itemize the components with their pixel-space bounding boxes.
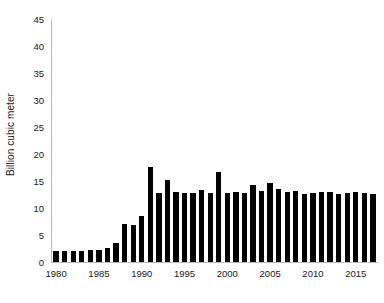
y-axis-tick-label: 25 bbox=[33, 122, 44, 133]
x-axis-tick-label: 1980 bbox=[46, 268, 67, 279]
x-axis-tick-label: 2015 bbox=[345, 268, 366, 279]
bar bbox=[310, 193, 315, 262]
bar bbox=[96, 250, 101, 262]
y-axis-title: Billion cubic meter bbox=[0, 0, 22, 268]
bar bbox=[131, 225, 136, 262]
y-axis-tick-label: 15 bbox=[33, 176, 44, 187]
bar bbox=[62, 251, 67, 262]
bar bbox=[319, 192, 324, 262]
y-axis-tick-label: 20 bbox=[33, 149, 44, 160]
x-axis-line bbox=[51, 262, 378, 263]
bar bbox=[259, 191, 264, 262]
y-axis-tick-labels: 051015202530354045 bbox=[22, 0, 48, 280]
bar bbox=[165, 180, 170, 262]
bar bbox=[293, 191, 298, 262]
bar bbox=[302, 194, 307, 262]
bars-layer bbox=[51, 19, 378, 262]
y-axis-title-text: Billion cubic meter bbox=[6, 92, 17, 175]
bar bbox=[53, 251, 58, 262]
x-axis-tick-label: 1985 bbox=[88, 268, 109, 279]
bar bbox=[327, 192, 332, 262]
bar bbox=[156, 193, 161, 262]
bar bbox=[336, 194, 341, 262]
x-axis-tick-label: 2010 bbox=[302, 268, 323, 279]
y-axis-tick-label: 5 bbox=[39, 230, 44, 241]
bar bbox=[88, 250, 93, 262]
plot-area bbox=[51, 19, 378, 263]
bar bbox=[242, 193, 247, 262]
bar bbox=[267, 183, 272, 262]
bar bbox=[190, 193, 195, 262]
bar bbox=[276, 189, 281, 262]
x-axis-tick-label: 1995 bbox=[174, 268, 195, 279]
bar bbox=[353, 192, 358, 262]
bar bbox=[199, 190, 204, 262]
bar bbox=[208, 193, 213, 262]
bar bbox=[233, 192, 238, 262]
bar bbox=[250, 185, 255, 262]
bar bbox=[285, 192, 290, 262]
bar bbox=[182, 193, 187, 262]
x-axis-tick-labels: 19801985199019952000200520102015 bbox=[51, 268, 378, 288]
y-axis-tick-label: 30 bbox=[33, 95, 44, 106]
bar bbox=[105, 248, 110, 262]
y-axis-tick-label: 35 bbox=[33, 68, 44, 79]
bar bbox=[139, 216, 144, 262]
bar bbox=[362, 193, 367, 262]
y-axis-tick-label: 10 bbox=[33, 203, 44, 214]
bar bbox=[113, 243, 118, 262]
bar bbox=[148, 167, 153, 262]
x-axis-tick-label: 2005 bbox=[260, 268, 281, 279]
bar bbox=[173, 192, 178, 262]
bar bbox=[370, 194, 375, 262]
bar bbox=[79, 251, 84, 262]
bar bbox=[216, 172, 221, 262]
bar-chart-figure: Billion cubic meter 051015202530354045 1… bbox=[0, 0, 384, 303]
y-axis-tick-label: 45 bbox=[33, 14, 44, 25]
y-axis-tick-label: 40 bbox=[33, 41, 44, 52]
bar bbox=[225, 193, 230, 262]
x-axis-tick-label: 1990 bbox=[131, 268, 152, 279]
x-axis-tick-label: 2000 bbox=[217, 268, 238, 279]
y-axis-tick-label: 0 bbox=[39, 257, 44, 268]
bar bbox=[345, 193, 350, 262]
bar bbox=[71, 251, 76, 262]
bar bbox=[122, 224, 127, 262]
